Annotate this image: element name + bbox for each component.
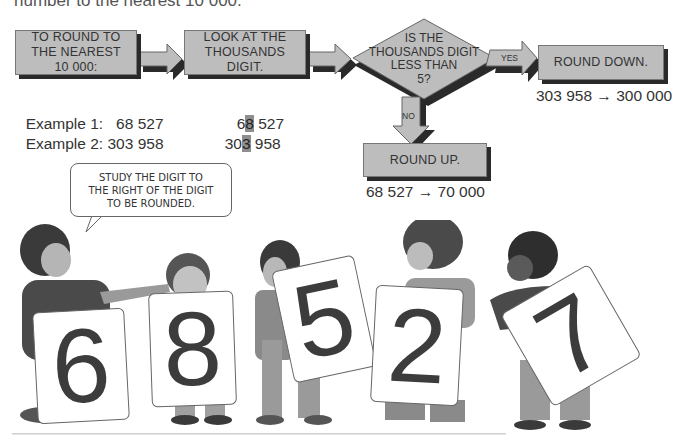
round-down-example: 303 958 → 300 000 [536,87,672,105]
flowchart-step-look: LOOK AT THE THOUSANDS DIGIT. [184,30,306,75]
number-card-8: 8 [148,291,237,408]
round-down-label: ROUND DOWN. [554,55,649,70]
digit-post: 958 [251,135,281,152]
step1-line: TO ROUND TO [31,30,121,45]
card-digit: 5 [283,254,365,384]
example-2-row: Example 2: 303 958 [17,117,164,153]
flowchart-step-start: TO ROUND TO THE NEAREST 10 000: [15,30,137,75]
decision-line: THOUSANDS DIGIT [366,46,482,60]
arrow-right-icon [137,44,188,80]
decision-line: 5? [372,73,476,87]
card-digit: 8 [161,288,224,410]
decision-line: LESS THAN [372,59,476,73]
bottom-divider-shadow [12,434,506,435]
digit-pre: 30 [225,135,242,152]
no-label: NO [402,111,415,121]
example-number: 303 958 [107,135,163,152]
step2-line: THOUSANDS DIGIT. [185,45,305,75]
card-digit: 6 [49,305,114,428]
speech-line: THE RIGHT OF THE DIGIT [89,184,214,197]
speech-bubble: STUDY THE DIGIT TO THE RIGHT OF THE DIGI… [70,163,232,217]
result-round-down: ROUND DOWN. [538,45,664,80]
speech-line: TO BE ROUNDED. [89,197,214,210]
number-card-2: 2 [370,285,464,406]
result-round-up: ROUND UP. [363,143,487,177]
step1-line: 10 000: [31,60,121,75]
round-up-label: ROUND UP. [390,153,460,168]
card-digit: 2 [385,284,450,407]
decision-text: IS THE THOUSANDS DIGIT LESS THAN 5? [372,32,476,86]
arrow-right-icon [307,44,357,80]
example-2-highlight: 303 958 [216,117,281,153]
number-card-6: 6 [32,308,130,425]
speech-line: STUDY THE DIGIT TO [89,171,214,184]
example-label: Example 2: [26,135,104,152]
step2-line: LOOK AT THE [185,30,305,45]
step1-line: THE NEAREST [31,45,121,60]
thousands-digit-highlight: 3 [242,135,251,152]
decision-line: IS THE [372,32,476,46]
yes-label: YES [501,53,518,63]
round-up-example: 68 527 → 70 000 [366,183,485,201]
